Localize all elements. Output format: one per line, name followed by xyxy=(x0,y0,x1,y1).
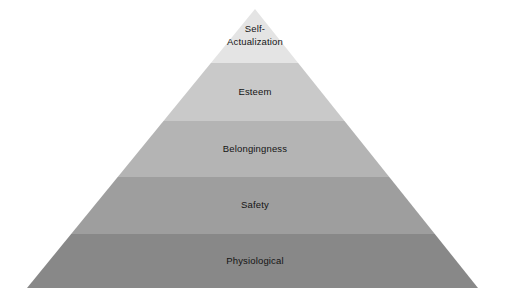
tier-label-self-actualization-line1: Self- xyxy=(245,23,265,34)
tier-label-belongingness: Belongingness xyxy=(223,143,287,154)
tier-label-esteem: Esteem xyxy=(238,86,271,97)
pyramid-diagram: Self- Actualization Esteem Belongingness… xyxy=(0,0,510,304)
pyramid-svg-canvas: Self- Actualization Esteem Belongingness… xyxy=(0,0,510,304)
tier-label-self-actualization-line2: Actualization xyxy=(227,36,283,47)
tier-label-safety: Safety xyxy=(241,199,269,210)
tier-label-physiological: Physiological xyxy=(226,255,283,266)
